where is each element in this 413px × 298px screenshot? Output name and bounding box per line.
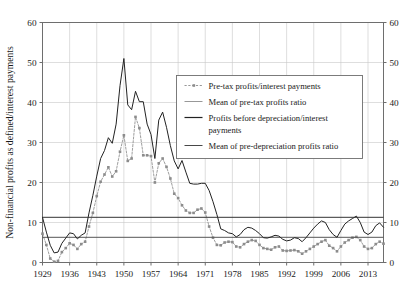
x-tick-label: 1978 — [223, 269, 242, 279]
y-tick-label-left: 40 — [27, 98, 37, 108]
y-tick-label-right: 60 — [390, 18, 400, 28]
legend-label-1: Mean of pre-tax profits ratio — [209, 97, 307, 107]
y-tick-label-left: 10 — [27, 218, 37, 228]
y-tick-label-right: 0 — [390, 258, 395, 268]
y-axis-label: Non-financial profits as defined/interes… — [4, 46, 15, 239]
x-tick-label: 1992 — [277, 269, 296, 279]
y-tick-label-right: 30 — [390, 138, 400, 148]
legend-label-0: Pre-tax profits/interest payments — [209, 81, 322, 91]
x-tick-label: 1985 — [250, 269, 269, 279]
x-tick-label: 1957 — [142, 269, 161, 279]
y-tick-label-right: 20 — [390, 178, 400, 188]
x-tick-label: 2006 — [332, 269, 351, 279]
y-tick-label-left: 50 — [27, 58, 37, 68]
x-tick-label: 1971 — [196, 269, 215, 279]
x-tick-label: 1943 — [88, 269, 107, 279]
x-tick-label: 2013 — [359, 269, 378, 279]
y-tick-label-right: 40 — [390, 98, 400, 108]
x-tick-label: 1929 — [33, 269, 52, 279]
legend-label-4: Mean of pre-depreciation profits ratio — [209, 141, 339, 151]
y-tick-label-right: 50 — [390, 58, 400, 68]
y-tick-label-left: 0 — [32, 258, 37, 268]
legend-label-3: payments — [209, 125, 243, 135]
x-tick-label: 1964 — [169, 269, 188, 279]
x-tick-label: 1936 — [60, 269, 79, 279]
y-tick-label-right: 10 — [390, 218, 400, 228]
x-tick-label: 1999 — [305, 269, 324, 279]
y-tick-label-left: 20 — [27, 178, 37, 188]
chart-container: 0010102020303040405050606019291936194319… — [0, 0, 413, 298]
x-tick-label: 1950 — [115, 269, 134, 279]
legend-label-2: Profits before depreciation/interest — [209, 113, 329, 123]
profits-interest-ratio-chart: 0010102020303040405050606019291936194319… — [0, 0, 413, 298]
y-tick-label-left: 30 — [27, 138, 37, 148]
y-tick-label-left: 60 — [27, 18, 37, 28]
legend-swatch-marker — [193, 84, 196, 87]
